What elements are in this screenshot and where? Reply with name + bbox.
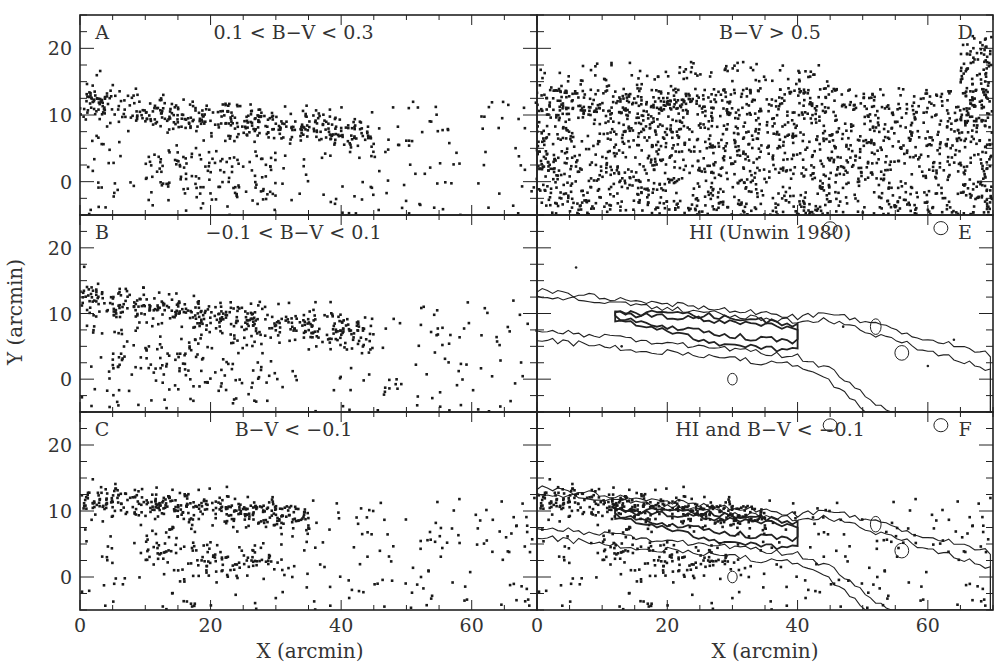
data-point xyxy=(876,110,879,113)
data-point xyxy=(221,332,224,335)
data-point xyxy=(676,107,679,110)
data-point xyxy=(322,541,325,544)
data-point xyxy=(388,555,391,558)
data-point xyxy=(792,111,795,114)
data-point xyxy=(204,310,207,313)
data-point xyxy=(509,584,512,587)
data-point xyxy=(650,106,653,109)
data-point xyxy=(141,496,144,499)
data-point xyxy=(949,206,952,209)
data-point xyxy=(248,518,251,521)
data-point xyxy=(246,574,249,577)
data-point xyxy=(546,125,549,128)
data-point xyxy=(340,127,343,130)
data-point xyxy=(381,579,384,582)
data-point xyxy=(671,560,674,563)
data-point xyxy=(155,379,158,382)
data-point xyxy=(338,320,341,323)
data-point xyxy=(792,173,795,176)
data-point xyxy=(965,95,968,98)
data-point xyxy=(555,174,558,177)
data-point xyxy=(132,94,135,97)
data-point xyxy=(149,305,152,308)
data-point xyxy=(784,152,787,155)
data-point xyxy=(840,519,843,522)
data-point xyxy=(211,198,214,201)
data-point xyxy=(183,578,186,581)
data-point xyxy=(191,605,194,608)
data-point xyxy=(236,530,239,533)
data-point xyxy=(108,370,111,373)
data-point xyxy=(759,150,762,153)
data-point xyxy=(201,556,204,559)
data-point xyxy=(742,125,745,128)
data-point xyxy=(691,203,694,206)
data-point xyxy=(925,571,928,574)
data-point xyxy=(175,163,178,166)
data-point xyxy=(583,499,586,502)
data-point xyxy=(989,156,992,159)
data-point xyxy=(758,147,761,150)
data-point xyxy=(354,118,357,121)
data-point xyxy=(735,125,738,128)
data-point xyxy=(477,408,480,411)
data-point xyxy=(798,102,801,105)
data-point xyxy=(964,124,967,127)
data-point xyxy=(252,512,255,515)
data-point xyxy=(598,496,601,499)
data-point xyxy=(789,169,792,172)
data-point xyxy=(195,147,198,150)
data-point xyxy=(575,165,578,168)
data-point xyxy=(235,397,238,400)
data-point xyxy=(543,165,546,168)
data-point xyxy=(357,343,360,346)
data-point xyxy=(834,147,837,150)
data-point xyxy=(593,123,596,126)
data-point xyxy=(804,148,807,151)
data-point xyxy=(877,121,880,124)
data-point xyxy=(987,116,990,119)
data-point xyxy=(342,327,345,330)
data-point xyxy=(873,153,876,156)
data-point xyxy=(175,310,178,313)
data-point xyxy=(229,157,232,160)
data-point xyxy=(178,370,181,373)
data-point xyxy=(262,198,265,201)
data-point xyxy=(157,515,160,518)
data-point xyxy=(966,532,969,535)
data-point xyxy=(690,498,693,501)
data-point xyxy=(141,305,144,308)
data-point xyxy=(778,105,781,108)
data-point xyxy=(103,584,106,587)
data-point xyxy=(637,513,640,516)
data-point xyxy=(383,393,386,396)
data-point xyxy=(441,344,444,347)
x-tick-label: 0 xyxy=(531,614,543,636)
data-point xyxy=(194,183,197,186)
data-point xyxy=(677,137,680,140)
data-point xyxy=(846,560,849,563)
data-point xyxy=(289,138,292,141)
data-point xyxy=(342,330,345,333)
data-point xyxy=(609,166,612,169)
data-point xyxy=(562,507,565,510)
data-point xyxy=(771,98,774,101)
data-point xyxy=(84,504,87,507)
data-point xyxy=(740,574,743,577)
data-point xyxy=(513,583,516,586)
data-point xyxy=(658,505,661,508)
data-point xyxy=(764,517,767,520)
data-point xyxy=(251,549,254,552)
data-point xyxy=(947,90,950,93)
data-point xyxy=(724,554,727,557)
data-point xyxy=(121,116,124,119)
data-point xyxy=(731,107,734,110)
data-point xyxy=(981,167,984,170)
data-point xyxy=(638,105,641,108)
data-point xyxy=(646,502,649,505)
data-point xyxy=(960,70,963,73)
data-point xyxy=(244,518,247,521)
data-point xyxy=(105,507,108,510)
data-point xyxy=(972,138,975,141)
data-point xyxy=(891,522,894,525)
